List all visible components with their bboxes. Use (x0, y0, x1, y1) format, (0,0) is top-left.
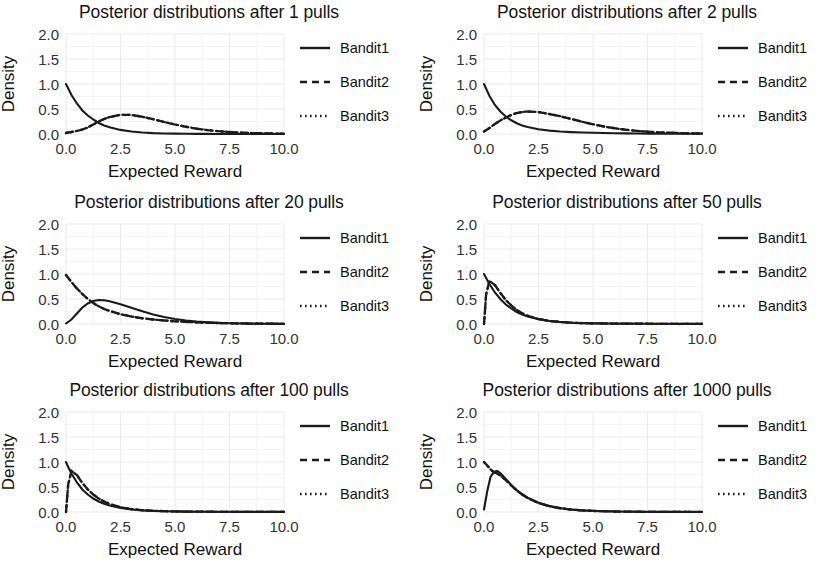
plot-area-6: 0.00.51.01.52.00.02.55.07.510.0Expected … (418, 404, 836, 564)
y-tick-label: 1.0 (456, 76, 477, 93)
panel-1000-pulls: Posterior distributions after 1000 pulls… (418, 378, 836, 568)
y-tick-label: 0.5 (456, 101, 477, 118)
x-tick-label: 7.5 (637, 140, 658, 157)
x-axis-title: Expected Reward (108, 352, 242, 371)
x-tick-label: 10.0 (687, 330, 716, 347)
y-tick-label: 0.5 (456, 479, 477, 496)
x-tick-label: 10.0 (269, 518, 298, 535)
y-axis-title: Density (418, 433, 436, 490)
x-tick-label: 0.0 (56, 140, 77, 157)
legend-label-bandit1: Bandit1 (758, 418, 807, 434)
x-axis-title: Expected Reward (526, 162, 660, 181)
x-tick-label: 2.5 (528, 140, 549, 157)
legend-label-bandit1: Bandit1 (758, 40, 807, 56)
x-tick-label: 0.0 (474, 140, 495, 157)
y-axis-title: Density (418, 245, 436, 302)
x-tick-label: 7.5 (637, 330, 658, 347)
y-tick-label: 1.5 (38, 241, 59, 258)
plot-area-1: 0.00.51.01.52.00.02.55.07.510.0Expected … (0, 26, 418, 186)
x-tick-label: 5.0 (583, 518, 604, 535)
y-axis-title: Density (0, 245, 18, 302)
panel-title: Posterior distributions after 1 pulls (0, 2, 418, 23)
panel-title: Posterior distributions after 2 pulls (418, 2, 836, 23)
legend-label-bandit3: Bandit3 (758, 298, 807, 314)
y-axis-title: Density (418, 55, 436, 112)
y-tick-label: 1.5 (456, 241, 477, 258)
x-tick-label: 0.0 (474, 518, 495, 535)
y-tick-label: 0.5 (38, 291, 59, 308)
legend-label-bandit2: Bandit2 (758, 74, 807, 90)
x-tick-label: 0.0 (56, 330, 77, 347)
x-tick-label: 10.0 (269, 140, 298, 157)
plot-area-5: 0.00.51.01.52.00.02.55.07.510.0Expected … (0, 404, 418, 564)
y-tick-label: 1.0 (38, 454, 59, 471)
x-tick-label: 2.5 (110, 140, 131, 157)
y-tick-label: 1.5 (38, 429, 59, 446)
legend-label-bandit1: Bandit1 (340, 418, 389, 434)
legend-label-bandit3: Bandit3 (340, 486, 389, 502)
legend-label-bandit2: Bandit2 (758, 264, 807, 280)
y-tick-label: 2.0 (38, 216, 59, 233)
panel-title: Posterior distributions after 50 pulls (418, 192, 836, 213)
x-axis-title: Expected Reward (526, 352, 660, 371)
y-tick-label: 2.0 (456, 26, 477, 43)
y-tick-label: 1.0 (456, 454, 477, 471)
x-tick-label: 10.0 (687, 518, 716, 535)
y-tick-label: 1.5 (38, 51, 59, 68)
legend-label-bandit1: Bandit1 (340, 40, 389, 56)
y-tick-label: 1.5 (456, 429, 477, 446)
x-tick-label: 2.5 (110, 330, 131, 347)
figure-grid: Posterior distributions after 1 pulls 0.… (0, 0, 836, 568)
y-tick-label: 1.0 (38, 76, 59, 93)
x-tick-label: 10.0 (269, 330, 298, 347)
panel-title: Posterior distributions after 1000 pulls (418, 380, 836, 401)
y-tick-label: 1.5 (456, 51, 477, 68)
x-tick-label: 7.5 (219, 330, 240, 347)
panel-20-pulls: Posterior distributions after 20 pulls 0… (0, 190, 418, 378)
x-tick-label: 2.5 (528, 330, 549, 347)
panel-title: Posterior distributions after 20 pulls (0, 192, 418, 213)
x-tick-label: 5.0 (165, 518, 186, 535)
legend-label-bandit1: Bandit1 (340, 230, 389, 246)
legend-label-bandit2: Bandit2 (340, 264, 389, 280)
legend-label-bandit3: Bandit3 (758, 486, 807, 502)
panel-100-pulls: Posterior distributions after 100 pulls … (0, 378, 418, 568)
y-tick-label: 2.0 (38, 26, 59, 43)
y-tick-label: 2.0 (38, 404, 59, 421)
legend-label-bandit2: Bandit2 (340, 452, 389, 468)
y-axis-title: Density (0, 55, 18, 112)
x-tick-label: 10.0 (687, 140, 716, 157)
legend-label-bandit3: Bandit3 (340, 108, 389, 124)
x-tick-label: 0.0 (56, 518, 77, 535)
x-tick-label: 5.0 (165, 330, 186, 347)
y-tick-label: 2.0 (456, 216, 477, 233)
x-axis-title: Expected Reward (526, 540, 660, 559)
panel-title: Posterior distributions after 100 pulls (0, 380, 418, 401)
plot-area-4: 0.00.51.01.52.00.02.55.07.510.0Expected … (418, 216, 836, 376)
x-tick-label: 5.0 (165, 140, 186, 157)
legend-label-bandit2: Bandit2 (340, 74, 389, 90)
panel-50-pulls: Posterior distributions after 50 pulls 0… (418, 190, 836, 378)
legend-label-bandit1: Bandit1 (758, 230, 807, 246)
legend-label-bandit3: Bandit3 (758, 108, 807, 124)
plot-area-3: 0.00.51.01.52.00.02.55.07.510.0Expected … (0, 216, 418, 376)
y-tick-label: 0.5 (38, 101, 59, 118)
x-axis-title: Expected Reward (108, 162, 242, 181)
panel-2-pulls: Posterior distributions after 2 pulls 0.… (418, 0, 836, 190)
y-tick-label: 0.5 (456, 291, 477, 308)
x-tick-label: 7.5 (637, 518, 658, 535)
panel-1-pulls: Posterior distributions after 1 pulls 0.… (0, 0, 418, 190)
legend-label-bandit3: Bandit3 (340, 298, 389, 314)
y-axis-title: Density (0, 433, 18, 490)
x-tick-label: 7.5 (219, 518, 240, 535)
x-tick-label: 7.5 (219, 140, 240, 157)
x-tick-label: 2.5 (528, 518, 549, 535)
y-tick-label: 2.0 (456, 404, 477, 421)
x-tick-label: 2.5 (110, 518, 131, 535)
plot-area-2: 0.00.51.01.52.00.02.55.07.510.0Expected … (418, 26, 836, 186)
x-tick-label: 5.0 (583, 330, 604, 347)
x-tick-label: 5.0 (583, 140, 604, 157)
x-axis-title: Expected Reward (108, 540, 242, 559)
x-tick-label: 0.0 (474, 330, 495, 347)
y-tick-label: 0.5 (38, 479, 59, 496)
